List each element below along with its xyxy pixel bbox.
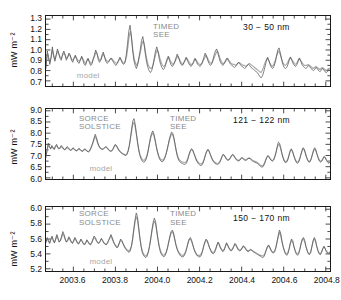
wavelength-range-label-panel2: 150 − 170 nm xyxy=(233,214,290,223)
model-curve-label: model xyxy=(77,72,100,81)
y-tick-label: 0.9 xyxy=(30,56,42,65)
y-tick-label: 1.0 xyxy=(30,46,42,55)
x-tick-label: 2004.2 xyxy=(187,276,213,285)
y-tick-label: 6.0 xyxy=(30,175,42,184)
y-tick-label: 7.5 xyxy=(30,140,42,149)
chart-panel-30-50nm: mW m⁻² 1.31.21.11.00.90.80.7 30 − 50 nm … xyxy=(0,4,341,96)
x-tick-label: 2004.6 xyxy=(271,276,297,285)
y-tick-label: 6.5 xyxy=(30,163,42,172)
y-tick-label: 8.5 xyxy=(30,117,42,126)
y-tick-labels-panel2: 6.05.85.65.45.2 xyxy=(0,206,42,272)
y-tick-label: 8.0 xyxy=(30,129,42,138)
y-tick-label: 1.1 xyxy=(30,35,42,44)
chart-panel-150-170nm: mW m⁻² 6.05.85.65.45.2 150 − 170 nm 2003… xyxy=(0,198,341,300)
instrument-label: TIMED SEE xyxy=(170,115,196,132)
figure-solar-spectral-irradiance: mW m⁻² 1.31.21.11.00.90.80.7 30 − 50 nm … xyxy=(0,0,341,300)
x-tick-label: 2004.8 xyxy=(314,276,340,285)
y-tick-labels-panel0: 1.31.21.11.00.90.80.7 xyxy=(0,15,42,87)
y-tick-labels-panel1: 9.08.58.07.57.06.56.0 xyxy=(0,108,42,180)
chart-panel-121-122nm: mW m⁻² 9.08.58.07.57.06.56.0 121 − 122 n… xyxy=(0,100,341,194)
x-tick-label: 2004.0 xyxy=(144,276,170,285)
y-tick-label: 1.2 xyxy=(30,25,42,34)
x-tick-label: 2004.4 xyxy=(229,276,255,285)
y-tick-label: 5.2 xyxy=(30,265,42,274)
y-tick-label: 0.8 xyxy=(30,67,42,76)
y-tick-label: 5.4 xyxy=(30,250,42,259)
y-tick-label: 5.8 xyxy=(30,219,42,228)
y-tick-label: 6.0 xyxy=(30,204,42,213)
model-curve-label: model xyxy=(89,165,112,174)
wavelength-range-label-panel1: 121 − 122 nm xyxy=(233,116,290,125)
instrument-label: SORCE SOLSTICE xyxy=(79,210,121,227)
y-tick-label: 0.7 xyxy=(30,78,42,87)
x-tick-labels: 2003.62003.82004.02004.22004.42004.62004… xyxy=(45,274,331,294)
instrument-label: SORCE SOLSTICE xyxy=(79,115,121,132)
y-tick-label: 7.0 xyxy=(30,152,42,161)
y-tick-label: 1.3 xyxy=(30,14,42,23)
wavelength-range-label-panel0: 30 − 50 nm xyxy=(243,23,290,32)
x-tick-label: 2003.8 xyxy=(102,276,128,285)
model-curve-label: model xyxy=(89,258,112,267)
y-tick-label: 9.0 xyxy=(30,106,42,115)
instrument-label: TIMED SEE xyxy=(170,210,196,227)
x-tick-label: 2003.6 xyxy=(60,276,86,285)
y-tick-label: 5.6 xyxy=(30,235,42,244)
instrument-label: TIMED SEE xyxy=(153,23,179,40)
